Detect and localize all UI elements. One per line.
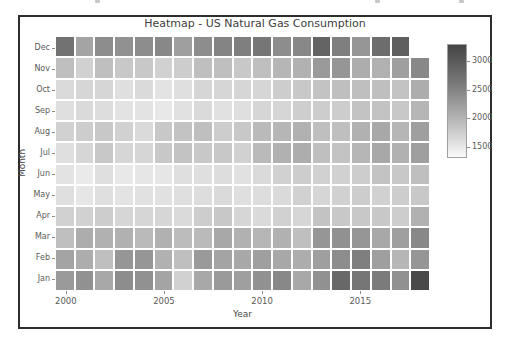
colorbar-tick-label: 2000 (472, 113, 492, 123)
heatmap-cell (234, 37, 252, 56)
heatmap-cell (174, 207, 192, 226)
y-tick-mark (52, 153, 55, 154)
heatmap-cell (234, 186, 252, 205)
heatmap-cell (253, 228, 271, 247)
heatmap-cell (352, 165, 370, 184)
heatmap-cell (76, 58, 94, 77)
heatmap-cell (194, 207, 212, 226)
chart-title: Heatmap - US Natural Gas Consumption (18, 17, 492, 30)
heatmap-cell (372, 37, 390, 56)
heatmap-cell (174, 271, 192, 290)
heatmap-cell (194, 101, 212, 120)
y-tick-mark (52, 216, 55, 217)
heatmap-cell (174, 143, 192, 162)
heatmap-cell (95, 58, 113, 77)
heatmap-cell (352, 80, 370, 99)
heatmap-cell (313, 101, 331, 120)
heatmap-cell (135, 228, 153, 247)
heatmap-cell (313, 37, 331, 56)
heatmap-cell (372, 271, 390, 290)
heatmap-cell (194, 186, 212, 205)
heatmap-cell (273, 228, 291, 247)
heatmap-cell (214, 122, 232, 141)
heatmap-cell (56, 37, 74, 56)
heatmap-cell (372, 207, 390, 226)
heatmap-cell (115, 58, 133, 77)
heatmap-cell (273, 143, 291, 162)
heatmap-cell (95, 228, 113, 247)
heatmap-cell (135, 207, 153, 226)
heatmap-cell (135, 143, 153, 162)
heatmap-cell (411, 250, 429, 269)
heatmap-cell (214, 207, 232, 226)
heatmap-cell (411, 101, 429, 120)
figure: Heatmap - US Natural Gas Consumption Dec… (0, 0, 509, 346)
heatmap-cell (352, 122, 370, 141)
heatmap-cell (352, 228, 370, 247)
heatmap-cell (411, 80, 429, 99)
heatmap-cell (194, 80, 212, 99)
heatmap-cell (352, 143, 370, 162)
cropped-text-artifact (95, 0, 100, 3)
heatmap-cell (194, 143, 212, 162)
heatmap-cell (352, 271, 370, 290)
heatmap-cell (372, 58, 390, 77)
heatmap-cell (135, 186, 153, 205)
y-tick-mark (52, 111, 55, 112)
heatmap-cell (194, 165, 212, 184)
heatmap-cell (194, 122, 212, 141)
heatmap-cell (174, 101, 192, 120)
heatmap-cell (115, 165, 133, 184)
y-tick-label: Nov (16, 64, 50, 74)
y-tick-mark (52, 195, 55, 196)
heatmap-cell (392, 122, 410, 141)
colorbar-tick-label: 1500 (472, 142, 492, 152)
y-tick-mark (52, 132, 55, 133)
x-tick-label: 2010 (244, 296, 280, 306)
heatmap-cell (253, 186, 271, 205)
heatmap-cell (372, 228, 390, 247)
heatmap-cell (214, 80, 232, 99)
y-tick-label: Oct (16, 85, 50, 95)
heatmap-cell (56, 143, 74, 162)
heatmap-cell (56, 271, 74, 290)
heatmap-cell (273, 186, 291, 205)
heatmap-cell (76, 186, 94, 205)
heatmap-cell (115, 122, 133, 141)
heatmap-cell (76, 207, 94, 226)
heatmap-cell (155, 80, 173, 99)
heatmap-cell (194, 271, 212, 290)
heatmap-cell (155, 250, 173, 269)
heatmap-cell (392, 186, 410, 205)
heatmap-cell (293, 37, 311, 56)
heatmap-cell (313, 186, 331, 205)
heatmap-cell (234, 58, 252, 77)
heatmap-cell (332, 207, 350, 226)
heatmap-cell (115, 80, 133, 99)
heatmap-cell (76, 122, 94, 141)
y-tick-label: Apr (16, 211, 50, 221)
heatmap-cell (253, 58, 271, 77)
heatmap-cell (332, 37, 350, 56)
heatmap-cell (392, 37, 410, 56)
colorbar-tick-mark (467, 90, 470, 91)
heatmap-cell (115, 271, 133, 290)
heatmap-cell (95, 122, 113, 141)
heatmap-cell (56, 101, 74, 120)
heatmap-cell (234, 122, 252, 141)
heatmap-cell (174, 228, 192, 247)
heatmap-cell (253, 250, 271, 269)
x-tick-label: 2015 (342, 296, 378, 306)
heatmap-cell (115, 250, 133, 269)
heatmap-cell (293, 122, 311, 141)
heatmap-cell (253, 80, 271, 99)
heatmap-cell (56, 122, 74, 141)
heatmap-cell (273, 58, 291, 77)
heatmap-cell (194, 58, 212, 77)
heatmap-cell (155, 228, 173, 247)
heatmap-cell (332, 58, 350, 77)
heatmap-cell (194, 37, 212, 56)
y-tick-mark (52, 48, 55, 49)
heatmap-cell (76, 80, 94, 99)
y-tick-label: May (16, 190, 50, 200)
